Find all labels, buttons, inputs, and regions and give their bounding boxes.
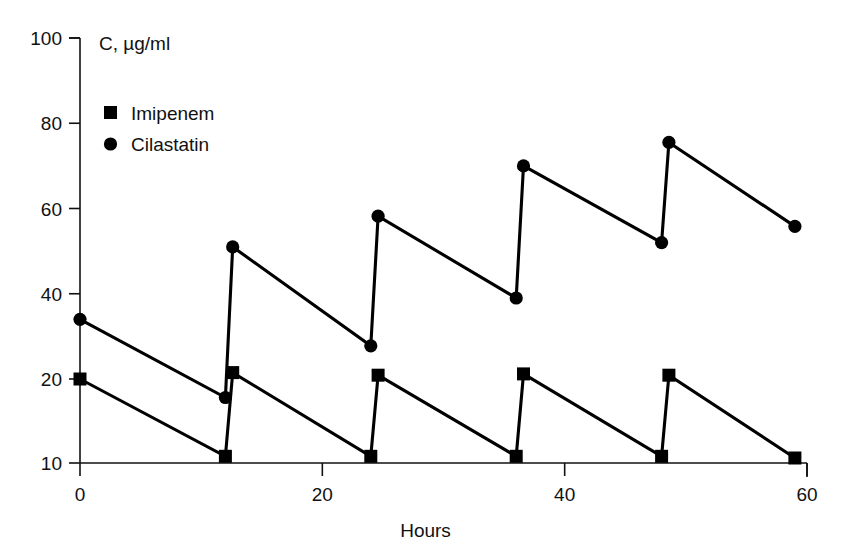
legend-marker-cilastatin: [104, 137, 117, 150]
data-point-cilastatin[interactable]: [364, 339, 377, 352]
chart-container: 10204060801000204060C, µg/mlHoursImipene…: [0, 0, 848, 551]
legend-label-imipenem: Imipenem: [131, 103, 214, 124]
data-point-imipenem[interactable]: [372, 369, 385, 382]
data-point-imipenem[interactable]: [364, 450, 377, 463]
x-tick-label: 0: [75, 484, 86, 505]
data-point-imipenem[interactable]: [74, 373, 87, 386]
legend-marker-imipenem: [104, 106, 117, 119]
data-point-imipenem[interactable]: [662, 369, 675, 382]
x-tick-label: 40: [554, 484, 575, 505]
x-axis-title: Hours: [400, 520, 451, 541]
data-point-cilastatin[interactable]: [662, 136, 675, 149]
series-line-cilastatin: [80, 142, 795, 397]
data-point-cilastatin[interactable]: [226, 240, 239, 253]
data-point-cilastatin[interactable]: [372, 210, 385, 223]
y-tick-label: 20: [41, 369, 62, 390]
y-tick-label: 40: [41, 284, 62, 305]
data-point-cilastatin[interactable]: [655, 236, 668, 249]
y-axis-title: C, µg/ml: [99, 33, 170, 54]
data-point-cilastatin[interactable]: [788, 220, 801, 233]
y-tick-label: 10: [41, 453, 62, 474]
x-tick-label: 20: [312, 484, 333, 505]
y-tick-label: 80: [41, 113, 62, 134]
data-point-cilastatin[interactable]: [510, 291, 523, 304]
data-point-cilastatin[interactable]: [73, 313, 86, 326]
data-point-imipenem[interactable]: [219, 450, 232, 463]
data-point-cilastatin[interactable]: [219, 391, 232, 404]
data-point-imipenem[interactable]: [517, 367, 530, 380]
series-line-imipenem: [80, 373, 795, 458]
data-point-imipenem[interactable]: [510, 450, 523, 463]
data-point-imipenem[interactable]: [788, 452, 801, 465]
data-point-imipenem[interactable]: [655, 450, 668, 463]
data-point-cilastatin[interactable]: [517, 159, 530, 172]
y-tick-label: 60: [41, 199, 62, 220]
x-tick-label: 60: [796, 484, 817, 505]
y-tick-label: 100: [30, 28, 62, 49]
pharmacokinetic-chart: 10204060801000204060C, µg/mlHoursImipene…: [0, 0, 848, 551]
legend-label-cilastatin: Cilastatin: [131, 134, 209, 155]
